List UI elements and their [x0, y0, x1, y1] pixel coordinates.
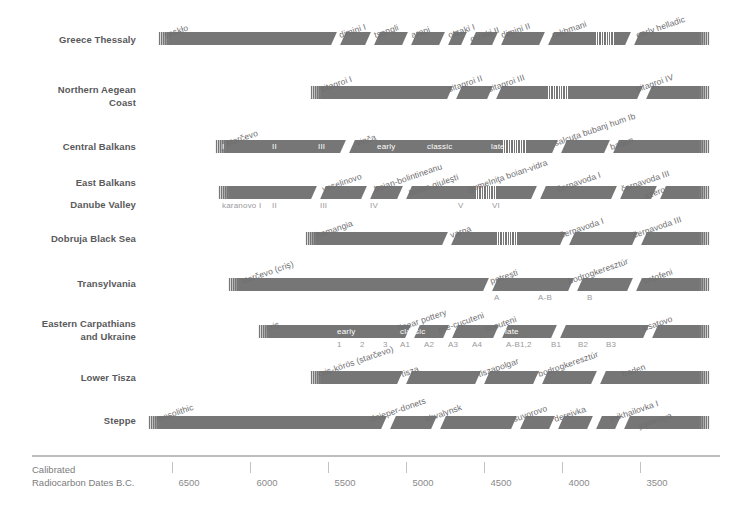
bar-fade-right: [699, 416, 710, 429]
axis-tick-label-4500: 4500: [490, 477, 511, 488]
inner-label-starcevo-i: I: [222, 142, 224, 151]
row-label-steppe: Steppe: [10, 415, 136, 428]
axis-tick: [562, 462, 563, 473]
bar-fade-left: [218, 186, 229, 199]
axis-rule: [32, 455, 720, 457]
timeline-bar-transylvania: [228, 278, 710, 291]
row-label-greece-thessaly: Greece Thessaly: [10, 34, 136, 47]
axis-tick-label-6000: 6000: [256, 477, 277, 488]
row-label-danube-valley: Danube Valley: [10, 199, 136, 212]
bar-fade-right: [699, 278, 710, 291]
sub-label-pre-cucuteni-2: 2: [360, 340, 365, 349]
sub-label-cucuteni-a4: A4: [472, 340, 482, 349]
sub-label-karanovo-vi: VI: [492, 201, 500, 210]
phase-divider: [339, 140, 356, 153]
inner-label-cucuteni-early: early: [337, 327, 355, 336]
sub-label-karanovo-i: karanovo I: [222, 201, 261, 210]
axis-tick: [172, 462, 173, 473]
timeline-bar-lower-tisza: [310, 371, 710, 384]
phase-divider: [590, 371, 607, 384]
sub-label-petresti-b: B: [587, 293, 593, 302]
sub-label-pre-cucuteni-1: 1: [337, 340, 342, 349]
transition-hatch: [548, 86, 568, 99]
row-label-lower-tisza: Lower Tisza: [10, 372, 136, 385]
axis-tick-label-6500: 6500: [178, 477, 199, 488]
row-label-central-balkans: Central Balkans: [10, 141, 136, 154]
phase-divider: [530, 186, 547, 199]
bar-fade-right: [699, 140, 710, 153]
sub-label-karanovo-ii: II: [272, 201, 277, 210]
bar-fade-right: [699, 232, 710, 245]
transition-hatch: [503, 140, 527, 153]
sub-label-cucuteni-ab12: A-B1,2: [506, 340, 532, 349]
sub-label-cucuteni-a3: A3: [448, 340, 458, 349]
timeline-bar-greece-thessaly: [158, 32, 710, 45]
timeline-bar-central-balkans: [215, 140, 710, 153]
row-label-northern-aegean-coast: Northern Aegean Coast: [10, 84, 136, 109]
transition-hatch: [497, 232, 517, 245]
phase-divider: [626, 278, 643, 291]
sub-label-karanovo-v: V: [458, 201, 464, 210]
phase-divider: [550, 325, 567, 338]
sub-label-cucuteni-b2: B2: [578, 340, 588, 349]
axis-tick-label-3500: 3500: [646, 477, 667, 488]
bar-fade-left: [228, 278, 239, 291]
bar-fade-right: [699, 86, 710, 99]
inner-label-vinca-early: early: [377, 142, 395, 151]
sub-label-cucuteni-b3: B3: [606, 340, 616, 349]
inner-label-cucuteni-late: late: [505, 327, 519, 336]
sub-label-karanovo-iv: IV: [370, 201, 378, 210]
axis-caption: CalibratedRadiocarbon Dates B.C.: [32, 464, 134, 489]
transition-hatch: [596, 32, 615, 45]
sub-label-cucuteni-b1: B1: [551, 340, 561, 349]
inner-label-vinca-late: late: [491, 142, 505, 151]
inner-label-starcevo-iii: III: [318, 142, 325, 151]
chronology-chart: Greece Thessaly Northern Aegean Coast Ce…: [0, 0, 740, 512]
bar-fade-right: [699, 32, 710, 45]
bar-fade-right: [699, 186, 710, 199]
axis-tick: [484, 462, 485, 473]
axis-tick: [328, 462, 329, 473]
row-label-eastern-carpathians-and-ukraine: Eastern Carpathians and Ukraine: [10, 318, 136, 343]
bar-fade-left: [305, 232, 316, 245]
row-label-dobruja-black-sea: Dobruja Black Sea: [10, 233, 136, 246]
axis-tick-label-5500: 5500: [334, 477, 355, 488]
sub-label-cucuteni-a1: A1: [400, 340, 410, 349]
bar-fade-right: [699, 325, 710, 338]
axis-caption-line1: Calibrated: [32, 464, 75, 475]
phase-divider: [586, 416, 603, 429]
axis-tick-label-5000: 5000: [412, 477, 433, 488]
axis-tick: [250, 462, 251, 473]
sub-label-petresti-ab: A-B: [538, 293, 552, 302]
axis-caption-line2: Radiocarbon Dates B.C.: [32, 477, 134, 488]
row-label-east-balkans: East Balkans: [10, 177, 136, 190]
sub-label-cucuteni-a2: A2: [424, 340, 434, 349]
inner-label-starcevo-ii: II: [272, 142, 277, 151]
sub-label-karanovo-iii: III: [320, 201, 327, 210]
row-label-transylvania: Transylvania: [10, 278, 136, 291]
axis-tick-label-4000: 4000: [568, 477, 589, 488]
bar-fade-right: [699, 371, 710, 384]
inner-label-vinca-classic: classic: [427, 142, 452, 151]
axis-tick: [640, 462, 641, 473]
axis-tick: [406, 462, 407, 473]
sub-label-petresti-a: A: [494, 293, 500, 302]
